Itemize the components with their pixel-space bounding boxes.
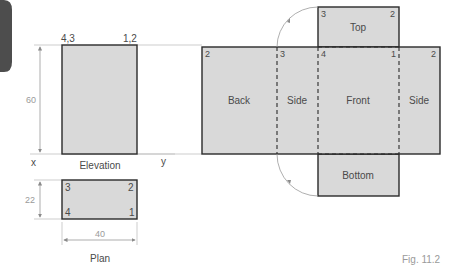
plan-corner-2: 2: [128, 182, 134, 193]
plan-width-dim: 40: [95, 229, 105, 239]
plan-corner-4: 4: [65, 207, 71, 218]
face-label-back: Back: [228, 95, 251, 106]
elevation-title: Elevation: [79, 160, 120, 171]
axis-x-label: x: [31, 157, 36, 168]
corner-number: 2: [390, 9, 395, 19]
elevation-rect: [62, 45, 137, 154]
plan-corner-1: 1: [129, 207, 135, 218]
corner-number: 2: [205, 49, 210, 59]
elevation-corner-right: 1,2: [123, 33, 137, 44]
plan-corner-3: 3: [65, 182, 71, 193]
corner-number: 4: [321, 49, 326, 59]
plan-depth-dim: 22: [25, 195, 35, 205]
plan-title: Plan: [90, 253, 110, 264]
face-label-side-right: Side: [409, 95, 429, 106]
face-label-side-left: Side: [287, 95, 307, 106]
face-label-top: Top: [350, 22, 367, 33]
elevation-corner-left: 4,3: [61, 33, 75, 44]
page-tab: [0, 0, 12, 72]
axis-y-label: y: [161, 156, 166, 167]
development-drawing: 60 4,3 1,2 x y Elevation 22 40 3 2 4 1 P…: [0, 0, 455, 269]
corner-number: 3: [280, 49, 285, 59]
plan-view: [34, 180, 137, 245]
figure-caption: Fig. 11.2: [402, 254, 441, 265]
elevation-view: [30, 45, 202, 154]
elevation-height-dim: 60: [26, 95, 36, 105]
face-label-bottom: Bottom: [342, 170, 374, 181]
plan-rect: [62, 180, 137, 219]
fold-arc-top: [277, 7, 318, 47]
face-label-front: Front: [346, 95, 370, 106]
corner-number: 1: [391, 49, 396, 59]
corner-number: 3: [321, 9, 326, 19]
corner-number: 2: [431, 49, 436, 59]
fold-arc-bottom: [277, 154, 318, 196]
